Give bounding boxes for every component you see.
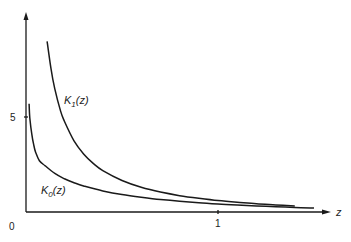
y-tick-label-5: 5 [10, 112, 16, 123]
labels: 0 5 1 z K1(z) K0(z) [9, 94, 342, 232]
y-axis-arrow-icon [24, 12, 29, 20]
x-axis-arrow-icon [322, 210, 331, 215]
origin-label: 0 [9, 221, 15, 232]
k1-curve-label: K1(z) [64, 94, 89, 109]
k1-label-arg: (z) [76, 94, 89, 106]
bessel-k-chart: 0 5 1 z K1(z) K0(z) [0, 0, 351, 242]
k0-curve-label: K0(z) [41, 184, 66, 199]
curves [29, 41, 314, 208]
axes [24, 12, 332, 215]
k1-curve [47, 41, 295, 206]
k0-label-arg: (z) [53, 184, 66, 196]
x-axis-label: z [335, 206, 342, 218]
x-tick-label-1: 1 [215, 218, 221, 229]
k0-curve [29, 104, 314, 208]
